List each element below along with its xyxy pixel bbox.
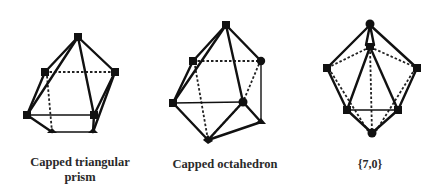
label-line-2: prism bbox=[18, 170, 142, 185]
capped-triangular-prism-diagram bbox=[23, 33, 119, 133]
label-line-1: Capped triangular bbox=[18, 155, 142, 170]
seven-zero-label: {7,0} bbox=[330, 157, 410, 172]
seven-zero-diagram bbox=[323, 20, 421, 138]
capped-octahedron-diagram bbox=[169, 21, 266, 144]
capped-octahedron-label: Capped octahedron bbox=[160, 157, 290, 172]
capped-triangular-prism-label: Capped triangular prism bbox=[18, 155, 142, 185]
